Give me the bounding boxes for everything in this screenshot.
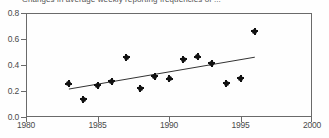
chart-figure: Changes in average weekly reporting freq… xyxy=(0,0,329,138)
data-point xyxy=(137,85,144,92)
data-point xyxy=(123,54,130,61)
x-tick-label: 1980 xyxy=(17,120,35,130)
data-point xyxy=(251,28,258,35)
data-point xyxy=(151,73,158,80)
data-point xyxy=(194,53,201,60)
data-point xyxy=(108,78,115,85)
y-tick-label: 0.2 xyxy=(8,86,19,96)
x-tick-label: 1995 xyxy=(231,120,249,130)
plot-area: 0.00.20.40.60.8 19801985199019952000 xyxy=(26,13,312,117)
x-tick-label: 1990 xyxy=(160,120,178,130)
y-tick-label: 0.6 xyxy=(8,34,19,44)
data-point xyxy=(65,80,72,87)
data-point xyxy=(223,80,230,87)
y-tick-label: 0.8 xyxy=(8,8,19,18)
trend-line xyxy=(26,13,312,117)
x-tick-label: 1985 xyxy=(88,120,106,130)
data-point xyxy=(94,82,101,89)
data-point xyxy=(180,56,187,63)
chart-title: Changes in average weekly reporting freq… xyxy=(22,0,322,4)
y-tick-label: 0.4 xyxy=(8,60,19,70)
data-point xyxy=(80,96,87,103)
data-point xyxy=(208,60,215,67)
data-point xyxy=(166,75,173,82)
x-tick-label: 2000 xyxy=(303,120,321,130)
data-point xyxy=(237,75,244,82)
